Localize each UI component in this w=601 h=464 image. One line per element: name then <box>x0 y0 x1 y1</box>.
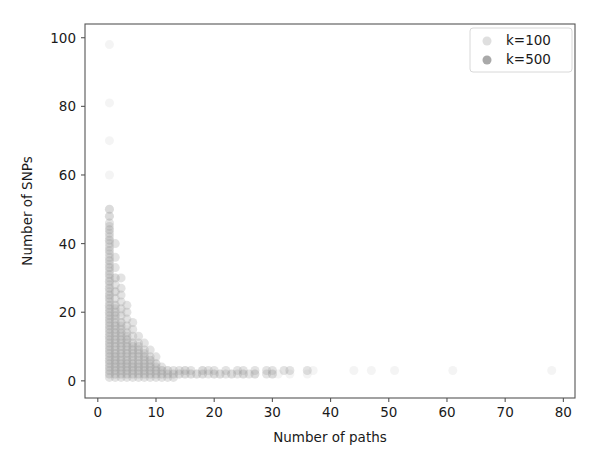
x-tick-label: 50 <box>380 404 397 420</box>
x-tick-label: 40 <box>322 404 339 420</box>
x-tick-label: 30 <box>264 404 281 420</box>
x-tick-label: 0 <box>94 404 103 420</box>
x-tick-label: 10 <box>147 404 164 420</box>
y-tick-label: 60 <box>59 167 76 183</box>
scatter-plot-figure: 01020304050607080020406080100 Number of … <box>0 0 601 464</box>
legend-label-k-500: k=500 <box>506 51 551 67</box>
legend-marker-k-500 <box>483 56 492 65</box>
legend-marker-k-100 <box>483 37 492 46</box>
y-tick-label: 20 <box>59 304 76 320</box>
plot-canvas: 01020304050607080020406080100 Number of … <box>0 0 601 464</box>
data-point <box>285 366 294 375</box>
data-point <box>390 366 399 375</box>
data-point <box>448 366 457 375</box>
data-point <box>349 366 358 375</box>
data-point <box>111 263 120 272</box>
data-point <box>547 366 556 375</box>
y-tick-label: 40 <box>59 236 76 252</box>
legend-label-k-100: k=100 <box>506 32 551 48</box>
data-point <box>367 366 376 375</box>
x-tick-label: 20 <box>206 404 223 420</box>
x-tick-label: 70 <box>497 404 514 420</box>
data-point <box>105 170 114 179</box>
x-tick-label: 80 <box>555 404 572 420</box>
legend: k=100k=500 <box>470 28 572 72</box>
data-point <box>303 366 312 375</box>
data-point <box>117 273 126 282</box>
data-point <box>111 239 120 248</box>
x-tick-label: 60 <box>438 404 455 420</box>
data-point <box>105 136 114 145</box>
y-axis-title: Number of SNPs <box>19 156 35 265</box>
data-point <box>268 369 277 378</box>
data-point <box>105 40 114 49</box>
x-axis-title: Number of paths <box>273 429 387 445</box>
y-tick-label: 0 <box>67 373 76 389</box>
y-tick-label: 100 <box>50 30 76 46</box>
data-point <box>250 369 259 378</box>
y-tick-label: 80 <box>59 98 76 114</box>
data-point <box>111 253 120 262</box>
data-point <box>105 98 114 107</box>
